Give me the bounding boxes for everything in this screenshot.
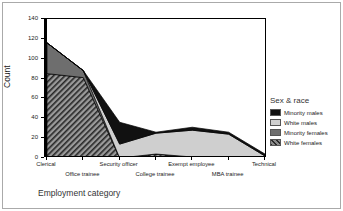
y-tick (41, 78, 44, 79)
stacked-area-series (47, 19, 265, 156)
dark-gray-swatch (270, 129, 281, 136)
plot-area (46, 18, 266, 157)
x-tick (228, 157, 229, 160)
y-tick-label: 80 (18, 75, 38, 81)
legend-item: White females (270, 139, 340, 146)
legend-title: Sex & race (270, 96, 340, 105)
y-axis-title: Count (2, 65, 12, 88)
y-tick-label: 100 (18, 55, 38, 61)
y-tick (41, 38, 44, 39)
x-axis-title: Employment category (38, 188, 120, 198)
x-tick (155, 157, 156, 160)
legend-item-label: White females (284, 140, 322, 146)
x-tick-label: Technical (252, 162, 276, 168)
y-tick-label: 0 (18, 154, 38, 160)
x-tick-label: Clerical (36, 162, 55, 168)
legend-item: Minority males (270, 109, 340, 116)
legend-items: Minority malesWhite malesMinority female… (270, 109, 340, 146)
y-tick (41, 58, 44, 59)
x-tick-label: Office trainee (65, 172, 99, 178)
x-tick (264, 157, 265, 160)
y-tick-label: 120 (18, 35, 38, 41)
legend-item: Minority females (270, 129, 340, 136)
legend-item: White males (270, 119, 340, 126)
x-tick (82, 157, 83, 160)
black-swatch (270, 109, 281, 116)
y-tick-label: 20 (18, 134, 38, 140)
plot-inner (47, 19, 265, 156)
x-tick-label: MBA trainee (212, 172, 244, 178)
x-tick (46, 157, 47, 160)
legend-item-label: Minority females (284, 130, 328, 136)
x-tick-label: Security officer (100, 162, 138, 168)
x-tick (191, 157, 192, 160)
y-tick (41, 97, 44, 98)
y-tick-label: 140 (18, 15, 38, 21)
y-tick-label: 40 (18, 114, 38, 120)
hatched-swatch (270, 139, 281, 146)
legend-item-label: White males (284, 120, 317, 126)
legend-item-label: Minority males (284, 110, 323, 116)
y-tick-label: 60 (18, 94, 38, 100)
chart-screenshot: 020406080100120140 Count ClericalOffice … (0, 0, 343, 211)
y-tick (41, 157, 44, 158)
x-tick-label: Exempt employee (168, 162, 214, 168)
y-tick (41, 117, 44, 118)
light-gray-swatch (270, 119, 281, 126)
x-tick-label: College trainee (136, 172, 175, 178)
y-tick (41, 137, 44, 138)
x-tick (119, 157, 120, 160)
legend: Sex & race Minority malesWhite malesMino… (270, 96, 340, 149)
y-tick (41, 18, 44, 19)
